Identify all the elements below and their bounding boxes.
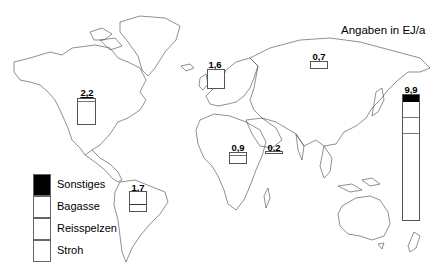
bar-asia: [402, 94, 420, 221]
bar-value-north-america: 2,2: [78, 87, 96, 98]
chart-title: Angaben in EJ/a: [341, 24, 425, 36]
legend-label: Reisspelzen: [57, 222, 117, 234]
legend-label: Bagasse: [57, 200, 100, 212]
legend-swatch-white: [33, 240, 51, 262]
bar-middle-east: [265, 151, 283, 154]
legend-swatch-white: [33, 218, 51, 240]
legend-item-stroh: Stroh: [33, 240, 153, 262]
legend-swatch-black: [33, 174, 51, 196]
legend-item-sonstiges: Sonstiges: [33, 174, 153, 196]
bar-europe: [207, 69, 225, 89]
bar-africa: [229, 152, 247, 164]
legend-label: Sonstiges: [57, 178, 105, 190]
bar-north-america: [77, 98, 96, 125]
bar-russia: [310, 61, 328, 69]
legend-item-reisspelzen: Reisspelzen: [33, 218, 153, 240]
legend-label: Stroh: [57, 244, 83, 256]
legend-swatch-white: [33, 196, 51, 218]
legend-item-bagasse: Bagasse: [33, 196, 153, 218]
